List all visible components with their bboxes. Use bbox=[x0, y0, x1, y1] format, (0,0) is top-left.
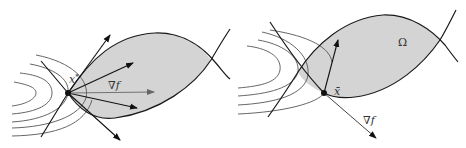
region-label: Ω bbox=[398, 36, 407, 49]
gradient-label: ∇f bbox=[363, 114, 377, 127]
gradient-label: ∇f bbox=[108, 79, 122, 92]
stationary-point bbox=[321, 90, 327, 96]
left-panel: x* ∇f bbox=[12, 29, 230, 140]
point-label: x̄ bbox=[334, 85, 341, 98]
optimal-point bbox=[65, 90, 71, 96]
optimality-diagram: x* ∇f x̄ ∇f Ω bbox=[0, 0, 466, 148]
feasible-region-omega bbox=[298, 15, 440, 98]
right-panel: x̄ ∇f Ω bbox=[238, 10, 458, 138]
